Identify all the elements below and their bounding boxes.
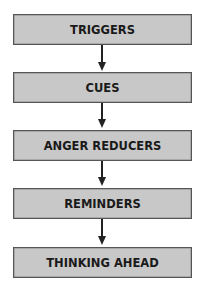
- arrow-down-icon: [98, 236, 106, 245]
- step-reminders: REMINDERS: [13, 188, 192, 219]
- step-label: REMINDERS: [64, 197, 141, 211]
- step-anger-reducers: ANGER REDUCERS: [13, 130, 192, 161]
- arrow-down-icon: [98, 119, 106, 128]
- step-triggers: TRIGGERS: [13, 14, 192, 45]
- arrow-down-icon: [98, 62, 106, 71]
- arrow-shaft: [101, 45, 103, 63]
- arrow-shaft: [101, 161, 103, 178]
- step-label: THINKING AHEAD: [46, 256, 158, 270]
- step-cues: CUES: [13, 72, 192, 103]
- step-label: ANGER REDUCERS: [44, 139, 162, 153]
- arrow-shaft: [101, 219, 103, 237]
- step-label: TRIGGERS: [70, 23, 135, 37]
- arrow-shaft: [101, 103, 103, 120]
- arrow-down-icon: [98, 177, 106, 186]
- step-thinking-ahead: THINKING AHEAD: [13, 247, 192, 278]
- step-label: CUES: [86, 81, 120, 95]
